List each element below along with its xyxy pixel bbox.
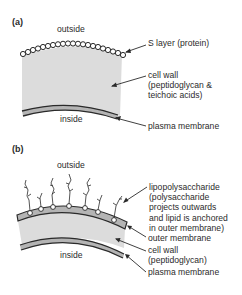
inside-label-b: inside [60,250,82,260]
annotation-lipopolysaccharide: lipopolysaccharide (polysaccharide proje… [149,182,228,233]
panel-a-graphic [20,41,146,126]
panel-label-a: (a) [12,17,23,27]
outside-label-b: outside [57,160,85,170]
annotation-cell-wall-a: cell wall (peptidoglycan & teichoic acid… [148,70,212,101]
annotation-outer-membrane: outer membrane [148,233,211,243]
annotation-plasma-membrane-a: plasma membrane [148,121,219,131]
annotation-s-layer: S layer (protein) [148,38,209,48]
annotation-plasma-membrane-b: plasma membrane [148,267,219,277]
outside-label-a: outside [57,24,85,34]
panel-label-b: (b) [12,144,24,154]
inside-label-a: inside [60,114,82,124]
annotation-cell-wall-b: cell wall (peptidoglycan) [148,245,207,265]
